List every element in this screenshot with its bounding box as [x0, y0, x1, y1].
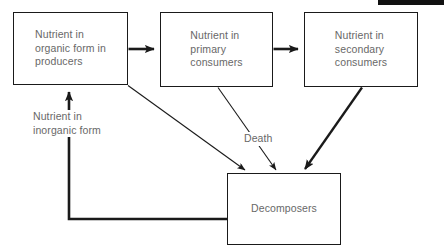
- node-primary-consumers[interactable]: Nutrient in primary consumers: [160, 12, 273, 87]
- nutrient-cycle-diagram: Nutrient in organic form in producers Nu…: [0, 0, 444, 252]
- node-producers-label: Nutrient in organic form in producers: [35, 28, 106, 69]
- node-secondary-consumers[interactable]: Nutrient in secondary consumers: [304, 12, 418, 87]
- node-decomposers[interactable]: Decomposers: [227, 173, 341, 245]
- node-decomposers-label: Decomposers: [251, 202, 317, 216]
- node-primary-consumers-label: Nutrient in primary consumers: [190, 29, 242, 70]
- edge-producers-to-decomposers: [128, 86, 245, 171]
- edge-primary-to-decomposers: [218, 88, 276, 171]
- edge-secondary-to-decomposers: [305, 88, 362, 170]
- node-producers[interactable]: Nutrient in organic form in producers: [13, 12, 128, 85]
- label-inorganic-form: Nutrient in inorganic form: [33, 110, 101, 137]
- node-secondary-consumers-label: Nutrient in secondary consumers: [335, 29, 387, 70]
- label-death: Death: [244, 132, 273, 146]
- corner-mark: [378, 0, 444, 5]
